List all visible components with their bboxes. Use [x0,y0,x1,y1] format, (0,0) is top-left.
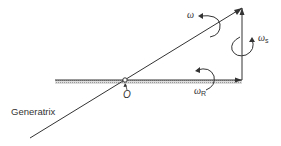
omega-r-label: ωR [194,86,206,97]
origin-point [123,78,127,82]
omega-r-subscript: R [201,90,206,97]
kinematics-diagram [0,0,281,146]
omega-rotation-arrow-icon [200,16,220,37]
generatrix-label: Generatrix [11,107,55,117]
omega-rotation-arrowhead-icon [198,13,203,19]
generatrix-line [30,8,242,138]
omega-r-rotation-arrowhead-icon [195,67,200,73]
omega-s-rotation-arrowhead-icon [249,37,255,42]
omega-label: ω [187,10,194,20]
omega-s-label: ωs [258,33,269,44]
omega-s-subscript: s [265,37,269,44]
omega-r-symbol: ω [194,85,201,96]
omega-s-symbol: ω [258,32,265,43]
origin-label: O [123,90,131,100]
